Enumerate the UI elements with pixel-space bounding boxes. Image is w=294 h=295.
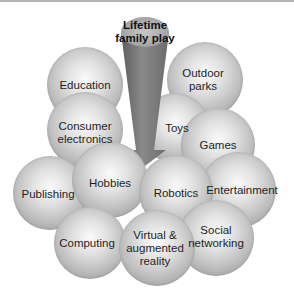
label-vr-line3: reality xyxy=(126,255,184,268)
label-vr-line2: augmented xyxy=(126,242,184,255)
cone-title-line1: Lifetime xyxy=(115,19,174,32)
label-consumer-electronics-line2: electronics xyxy=(58,133,113,146)
label-consumer-electronics: Consumer electronics xyxy=(58,120,113,146)
label-vr-line1: Virtual & xyxy=(126,229,184,242)
label-entertainment: Entertainment xyxy=(206,184,278,197)
label-outdoor-parks-line2: parks xyxy=(182,80,224,93)
label-social-networking: Social networking xyxy=(188,224,244,250)
cone-title-line2: family play xyxy=(115,32,174,45)
label-virtual-augmented-reality: Virtual & augmented reality xyxy=(126,229,184,268)
label-hobbies: Hobbies xyxy=(89,177,131,190)
label-toys: Toys xyxy=(165,122,189,135)
cone-title: Lifetime family play xyxy=(115,19,174,45)
label-computing: Computing xyxy=(59,237,115,250)
label-social-networking-line2: networking xyxy=(188,237,244,250)
label-publishing: Publishing xyxy=(21,188,74,201)
label-education: Education xyxy=(59,79,110,92)
label-outdoor-parks-line1: Outdoor xyxy=(182,67,224,80)
label-outdoor-parks: Outdoor parks xyxy=(182,67,224,93)
label-consumer-electronics-line1: Consumer xyxy=(58,120,113,133)
label-games: Games xyxy=(199,139,236,152)
label-social-networking-line1: Social xyxy=(188,224,244,237)
label-robotics: Robotics xyxy=(154,187,199,200)
